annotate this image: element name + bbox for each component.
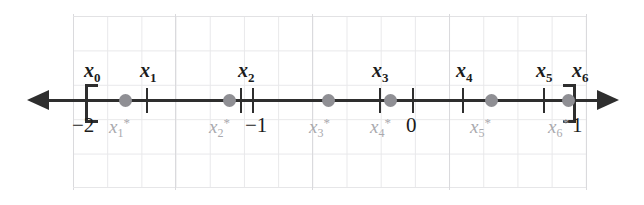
label-x0-sub: 0 xyxy=(94,70,101,85)
grid-major-line xyxy=(175,14,176,190)
partition-tick-x5 xyxy=(543,88,545,113)
number-line-figure: x0 x1 x2 x3 x4 x5 x6 x1* x2* x3* x4* x5*… xyxy=(0,0,644,205)
label-x5-star: x5* xyxy=(470,116,491,139)
axis-label-one: 1 xyxy=(572,115,583,136)
label-x2-sub: 2 xyxy=(248,70,255,85)
grid-major-line xyxy=(312,14,313,190)
grid-major-line xyxy=(586,14,587,190)
grid-edge-left xyxy=(73,14,74,190)
label-x6-base: x xyxy=(572,59,582,81)
sample-dot-x2-star xyxy=(223,94,236,107)
label-x5: x5 xyxy=(536,60,553,84)
label-x6-sub: 6 xyxy=(582,70,589,85)
label-x4: x4 xyxy=(456,60,473,84)
label-x1-star: x1* xyxy=(109,116,130,139)
sample-dot-x6-star xyxy=(562,94,575,107)
label-x1-star-sup: * xyxy=(123,115,130,130)
label-x5-sub: 5 xyxy=(546,70,553,85)
partition-tick-x3 xyxy=(379,88,381,113)
label-x2-star-sup: * xyxy=(223,115,230,130)
grid-edge-top xyxy=(73,16,586,17)
partition-tick-x4 xyxy=(462,88,464,113)
axis-label-neg2: −2 xyxy=(72,115,94,136)
label-x6-star-sup: * xyxy=(562,115,569,130)
axis-tick-neg1 xyxy=(252,88,254,113)
label-x1-sub: 1 xyxy=(150,70,157,85)
partition-tick-x2 xyxy=(240,88,242,113)
label-x3-sub: 3 xyxy=(382,70,389,85)
grid-edge-bottom xyxy=(73,187,586,188)
sample-dot-x3-star xyxy=(322,94,335,107)
label-x4-star: x4* xyxy=(370,116,391,139)
sample-dot-x1-star xyxy=(119,94,132,107)
grid-major-line xyxy=(449,14,450,190)
sample-dot-x4-star xyxy=(384,94,397,107)
label-x3: x3 xyxy=(372,60,389,84)
label-x1-base: x xyxy=(140,59,150,81)
label-x2-base: x xyxy=(238,59,248,81)
label-x6: x6 xyxy=(572,60,589,84)
label-x5-base: x xyxy=(536,59,546,81)
partition-tick-x1 xyxy=(146,88,148,113)
label-x2-star: x2* xyxy=(209,116,230,139)
label-x2: x2 xyxy=(238,60,255,84)
label-x3-star-sup: * xyxy=(323,115,330,130)
axis-arrow-left-icon xyxy=(27,90,49,110)
label-x0: x0 xyxy=(84,60,101,84)
label-x4-sub: 4 xyxy=(466,70,473,85)
sample-dot-x5-star xyxy=(485,94,498,107)
label-x5-star-sup: * xyxy=(484,115,491,130)
axis-label-neg1: −1 xyxy=(245,115,267,136)
label-x0-base: x xyxy=(84,59,94,81)
label-x6-star: x6* xyxy=(548,116,569,139)
label-x3-base: x xyxy=(372,59,382,81)
label-x4-star-sup: * xyxy=(384,115,391,130)
axis-tick-zero xyxy=(412,88,414,113)
label-x4-base: x xyxy=(456,59,466,81)
axis-arrow-right-icon xyxy=(597,90,619,110)
label-x3-star: x3* xyxy=(309,116,330,139)
label-x1: x1 xyxy=(140,60,157,84)
axis-label-zero: 0 xyxy=(406,115,417,136)
